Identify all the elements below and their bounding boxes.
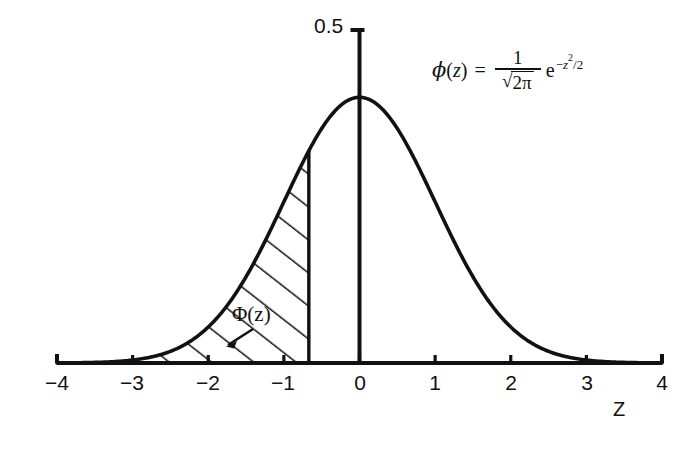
x-tick-label--2: −2: [188, 372, 228, 393]
x-tick-label-2: 2: [491, 372, 531, 393]
y-axis-top-label: 0.5: [314, 14, 343, 38]
formula-exponent: −z2/2: [556, 56, 584, 71]
x-tick-label--3: −3: [112, 372, 152, 393]
density-formula: ϕ(z) = 1 √2π e−z2/2: [432, 48, 583, 92]
formula-exp-sign: −: [556, 58, 563, 73]
formula-paren-open: (: [446, 60, 453, 80]
x-tick-label--4: −4: [37, 372, 77, 393]
shaded-region-phi: [57, 151, 309, 363]
formula-exp-power: 2: [568, 52, 573, 63]
x-tick-label-1: 1: [415, 372, 455, 393]
x-tick-label-3: 3: [567, 372, 607, 393]
formula-fraction: 1 √2π: [495, 48, 541, 92]
formula-radicand: 2π: [511, 71, 533, 92]
x-tick-label-4: 4: [642, 372, 682, 393]
formula-exp-div: /2: [573, 58, 583, 73]
x-tick-label--1: −1: [263, 372, 303, 393]
formula-sqrt: √2π: [502, 71, 534, 92]
formula-numerator: 1: [507, 48, 529, 68]
formula-exp-base: e: [546, 60, 555, 80]
formula-equals: =: [474, 60, 485, 80]
formula-arg: z: [453, 60, 461, 80]
formula-denominator: √2π: [498, 70, 538, 92]
formula-phi: ϕ: [432, 60, 446, 81]
x-tick-label-0: 0: [340, 372, 380, 393]
formula-paren-close: ): [461, 60, 468, 80]
y-axis: [351, 30, 365, 363]
x-axis-name: Z: [613, 398, 625, 421]
shaded-region-label: Φ(z): [232, 302, 271, 327]
normal-distribution-figure: −4 −3 −2 −1 0 1 2 3 4 Z 0.5 Φ(z) ϕ(z) = …: [0, 0, 700, 452]
